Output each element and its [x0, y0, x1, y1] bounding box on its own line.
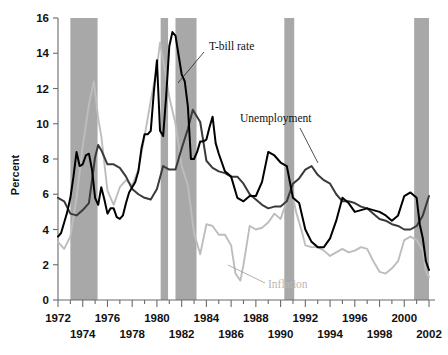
x-tick-label: 1974	[70, 328, 96, 340]
y-tick-label: 2	[43, 259, 49, 271]
y-tick-label: 4	[43, 224, 50, 236]
inflation-label: Inflation	[268, 278, 308, 290]
x-tick-label: 1976	[95, 312, 121, 324]
x-tick-label: 2002	[416, 328, 442, 340]
chart-background	[0, 0, 448, 355]
recession-band	[284, 18, 294, 300]
unemployment-label: Unemployment	[240, 112, 312, 125]
recession-band	[414, 18, 429, 300]
x-tick-label: 1996	[342, 312, 368, 324]
y-tick-label: 0	[43, 294, 49, 306]
recession-band	[161, 18, 168, 300]
x-tick-label: 1986	[218, 328, 244, 340]
x-tick-label: 2000	[391, 312, 417, 324]
t-bill-rate-label: T-bill rate	[209, 40, 254, 52]
x-tick-label: 1990	[268, 328, 294, 340]
economic-indicators-chart: 0246810121416 19721976198019841988199219…	[0, 0, 448, 355]
y-tick-label: 16	[36, 12, 49, 24]
x-tick-label: 1994	[317, 328, 343, 340]
y-tick-label: 10	[36, 118, 49, 130]
x-tick-label: 1988	[243, 312, 269, 324]
y-tick-label: 6	[43, 188, 49, 200]
x-tick-label: 1982	[169, 328, 195, 340]
x-tick-label: 1984	[194, 312, 220, 324]
x-tick-label: 1972	[45, 312, 71, 324]
y-tick-label: 12	[36, 83, 49, 95]
y-tick-label: 14	[36, 47, 49, 59]
chart-figure: 0246810121416 19721976198019841988199219…	[0, 0, 448, 355]
y-tick-label: 8	[43, 153, 50, 165]
x-tick-label: 1992	[293, 312, 319, 324]
x-tick-label: 1980	[144, 312, 170, 324]
y-axis-title: Percent	[9, 154, 21, 195]
x-tick-label: 1998	[367, 328, 393, 340]
x-tick-label: 1978	[119, 328, 145, 340]
